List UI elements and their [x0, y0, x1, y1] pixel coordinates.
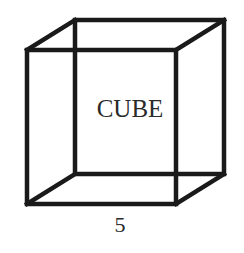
side-length-label: 5: [100, 212, 140, 238]
edge-bottom-right: [176, 174, 224, 204]
front-face: [27, 50, 176, 204]
edge-top-right: [176, 20, 224, 50]
edge-top-left: [27, 20, 75, 50]
edge-bottom-left: [27, 174, 75, 204]
cube-label: CUBE: [75, 95, 185, 123]
